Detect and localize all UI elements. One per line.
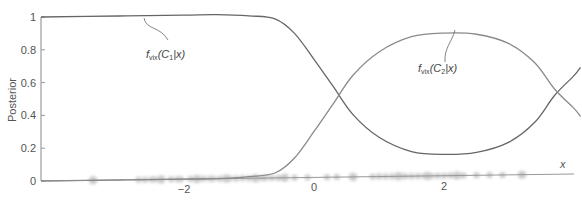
y-tick-label: 0.6 [21, 77, 36, 89]
annotation-c2: fvix(C2|x) [418, 62, 457, 75]
x-ticks: −202 [178, 180, 447, 195]
x-tick-label: 2 [441, 180, 447, 192]
x-tick-label: 0 [311, 181, 317, 193]
curve-c1 [41, 15, 581, 155]
y-tick-label: 0.4 [21, 109, 36, 121]
y-tick-label: 0.2 [21, 142, 36, 154]
y-tick-label: 0 [30, 175, 36, 187]
y-tick-label: 1 [30, 11, 36, 23]
x-tick-label: −2 [178, 183, 191, 195]
annotation-leader-c1 [144, 18, 168, 40]
y-tick-label: 0.8 [21, 44, 36, 56]
annotation-leader-c2 [445, 30, 455, 62]
y-axis-label: Posterior [6, 78, 18, 122]
x-axis-label: x [559, 158, 566, 170]
posterior-chart: 00.20.40.60.81 −202 Posterior x fvix(C1|… [0, 0, 582, 203]
annotation-c1: fvix(C1|x) [146, 48, 185, 61]
